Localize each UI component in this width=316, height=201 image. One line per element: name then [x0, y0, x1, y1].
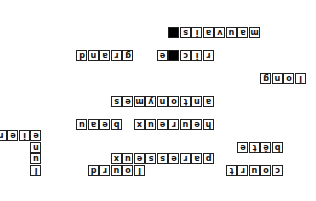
crossword-cell: e	[169, 154, 180, 165]
crossword-cell: e	[100, 119, 111, 130]
crossword-cell: x	[111, 154, 122, 165]
crossword-cell: u	[226, 27, 237, 38]
crossword-cell: l	[31, 165, 42, 176]
crossword-cell: n	[31, 142, 42, 153]
crossword-cell: b	[272, 142, 283, 153]
crossword-cell: r	[0, 131, 7, 142]
crossword-cell: u	[111, 165, 122, 176]
crossword-cell: v	[215, 27, 226, 38]
crossword-cell: g	[261, 73, 272, 84]
crossword-cell: r	[238, 165, 249, 176]
crossword-cell: e	[157, 119, 168, 130]
crossword-cell: t	[249, 142, 260, 153]
crossword-cell: i	[192, 50, 203, 61]
crossword-cell: u	[180, 119, 191, 130]
crossword-cell: o	[261, 165, 272, 176]
crossword-cell: l	[134, 165, 145, 176]
black-cell	[169, 50, 180, 61]
crossword-cell: e	[157, 50, 168, 61]
crossword-cell: y	[146, 96, 157, 107]
crossword-cell: e	[192, 119, 203, 130]
crossword-cell: n	[88, 50, 99, 61]
crossword-cell: t	[180, 96, 191, 107]
crossword-cell: e	[134, 154, 145, 165]
crossword-cell: r	[111, 50, 122, 61]
crossword-cell: n	[157, 96, 168, 107]
crossword-cell: d	[77, 50, 88, 61]
crossword-cell: r	[100, 165, 111, 176]
crossword-cell: o	[123, 165, 134, 176]
crossword-cell: u	[31, 154, 42, 165]
crossword-cell: c	[180, 50, 191, 61]
crossword-cell: e	[31, 131, 42, 142]
crossword-cell: a	[238, 27, 249, 38]
crossword-cell: m	[134, 96, 145, 107]
crossword-cell: a	[100, 50, 111, 61]
crossword-cell: o	[284, 73, 295, 84]
crossword-cell: u	[77, 119, 88, 130]
crossword-cell: e	[123, 96, 134, 107]
crossword-cell: g	[123, 50, 134, 61]
crossword-cell: a	[192, 154, 203, 165]
crossword-cell: i	[192, 27, 203, 38]
crossword-cell: ê	[261, 142, 272, 153]
crossword-cell: a	[88, 119, 99, 130]
crossword-cell: n	[272, 73, 283, 84]
crossword-cell: n	[192, 96, 203, 107]
crossword-cell: s	[157, 154, 168, 165]
crossword-cell: x	[134, 119, 145, 130]
crossword-cell: s	[180, 27, 191, 38]
crossword-cell: h	[203, 119, 214, 130]
crossword-cell: t	[226, 165, 237, 176]
crossword-cell: c	[272, 165, 283, 176]
crossword-grid: courtlourdluneparesseuxbêteierheureuxbea…	[0, 0, 316, 201]
crossword-cell: s	[146, 154, 157, 165]
crossword-cell: r	[203, 50, 214, 61]
crossword-cell: a	[203, 96, 214, 107]
crossword-cell: e	[238, 142, 249, 153]
crossword-cell: r	[180, 154, 191, 165]
crossword-cell: o	[169, 96, 180, 107]
crossword-cell: u	[146, 119, 157, 130]
crossword-cell: s	[111, 96, 122, 107]
crossword-cell: p	[203, 154, 214, 165]
crossword-cell: l	[295, 73, 306, 84]
black-cell	[169, 27, 180, 38]
crossword-cell: u	[249, 165, 260, 176]
crossword-cell: b	[111, 119, 122, 130]
crossword-cell: r	[169, 119, 180, 130]
crossword-cell: u	[123, 154, 134, 165]
crossword-cell: e	[8, 131, 19, 142]
crossword-cell: m	[249, 27, 260, 38]
crossword-cell: d	[88, 165, 99, 176]
crossword-cell: a	[203, 27, 214, 38]
crossword-cell: i	[19, 131, 30, 142]
